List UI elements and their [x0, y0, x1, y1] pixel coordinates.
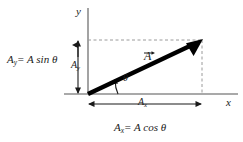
vector-a-label: A	[144, 50, 151, 62]
ay-component-label: Ay	[71, 60, 80, 72]
ay-equation: Ay= A sin θ	[7, 54, 57, 67]
diagram-canvas	[0, 0, 243, 142]
ax-equation-base: A	[114, 121, 121, 133]
ax-equation-rhs: = A cos θ	[124, 121, 166, 133]
theta-label: θ	[123, 73, 128, 83]
ax-arrowhead-right	[196, 101, 203, 107]
vector-components-figure: y x A θ Ay Ax Ay= A sin θ Ax= A cos θ	[0, 0, 243, 142]
ax-component-label: Ax	[138, 97, 147, 109]
vector-a-shaft	[88, 45, 192, 94]
ay-subscript: y	[77, 64, 80, 71]
ax-equation: Ax= A cos θ	[114, 122, 166, 135]
ax-subscript: x	[144, 101, 147, 108]
y-axis-label: y	[76, 6, 81, 17]
ay-arrowhead-top	[75, 40, 81, 47]
ay-equation-rhs: = A sin θ	[17, 53, 57, 65]
x-axis-label: x	[226, 97, 231, 108]
ax-arrowhead-left	[88, 101, 95, 107]
ay-arrowhead-bottom	[75, 88, 81, 95]
ay-equation-base: A	[7, 53, 14, 65]
vector-overarrow-icon	[144, 50, 155, 55]
